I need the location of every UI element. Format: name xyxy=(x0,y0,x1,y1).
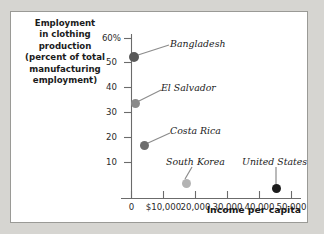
figure-background: Employment in clothing production (perce… xyxy=(0,0,324,234)
y-tick-label-30: 30 xyxy=(85,107,117,117)
leader-line-el-salvador xyxy=(139,90,161,101)
data-point-south-korea[interactable] xyxy=(182,179,191,188)
data-point-costa-rica[interactable] xyxy=(140,141,149,150)
y-tick-label-50: 50 xyxy=(85,57,117,67)
axis-and-leader-lines xyxy=(11,12,309,224)
y-tick-label-60: 60% xyxy=(85,33,121,43)
y-tick-label-10: 10 xyxy=(85,157,117,167)
y-tick-label-20: 20 xyxy=(85,132,117,142)
scatter-plot: Employment in clothing production (perce… xyxy=(11,12,309,224)
leader-line-bangladesh xyxy=(138,45,169,55)
leader-line-costa-rica xyxy=(148,133,170,143)
y-tick-label-40: 40 xyxy=(85,82,117,92)
data-label-costa-rica: Costa Rica xyxy=(170,125,221,136)
data-label-bangladesh: Bangladesh xyxy=(170,38,226,49)
chart-panel: Employment in clothing production (perce… xyxy=(10,11,308,223)
data-label-united-states: United States xyxy=(242,156,307,167)
data-label-south-korea: South Korea xyxy=(166,156,225,167)
data-point-bangladesh[interactable] xyxy=(129,52,139,62)
leader-line-south-korea xyxy=(185,167,192,179)
data-point-united-states[interactable] xyxy=(272,184,282,194)
data-point-el-salvador[interactable] xyxy=(131,99,140,108)
data-label-el-salvador: El Salvador xyxy=(161,82,216,93)
x-axis-title: Income per capita xyxy=(207,204,301,215)
